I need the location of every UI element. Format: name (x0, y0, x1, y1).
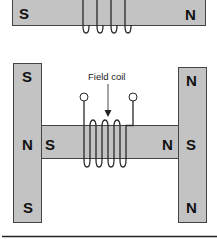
diagram-canvas: S N F (0, 0, 217, 239)
caption-arrow (105, 84, 112, 117)
bottom-magnet-bar (42, 126, 179, 159)
top-magnet: S N (13, 0, 206, 33)
bottom-magnet: Field coil S N S S N N S N (14, 64, 207, 223)
field-coil-caption: Field coil (88, 71, 126, 82)
right-terminal-icon (129, 93, 137, 101)
left-terminal-icon (80, 93, 88, 101)
top-bar-left-pole-label: S (19, 5, 29, 22)
top-bar-right-pole-label: N (185, 6, 196, 23)
right-pole-bottom-label: N (186, 199, 197, 216)
left-pole-inner-label: N (22, 136, 33, 153)
bar-left-end-label: S (45, 136, 55, 153)
left-pole-bottom-label: S (23, 199, 33, 216)
left-pole-top-label: S (22, 68, 32, 85)
electromagnet-diagram: S N F (0, 0, 217, 239)
top-magnet-bar (13, 0, 206, 26)
right-pole-inner-label: S (186, 136, 196, 153)
bar-right-end-label: N (162, 136, 173, 153)
right-pole-top-label: N (186, 72, 197, 89)
